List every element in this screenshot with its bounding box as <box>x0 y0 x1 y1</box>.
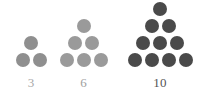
dot-row <box>14 51 48 68</box>
dot-row <box>67 34 101 51</box>
dot-row <box>23 34 40 51</box>
dot <box>77 19 91 33</box>
dot-group-10 <box>126 0 194 68</box>
group-label-6: 6 <box>58 76 109 90</box>
dot <box>136 36 150 50</box>
dot <box>77 53 91 67</box>
dot <box>85 36 99 50</box>
dot <box>60 53 74 67</box>
group-label-10: 10 <box>126 76 194 90</box>
dot <box>16 53 30 67</box>
dot <box>145 53 159 67</box>
dot <box>128 53 142 67</box>
dot <box>68 36 82 50</box>
dot <box>162 53 176 67</box>
dot-row <box>75 17 92 34</box>
dot <box>33 53 47 67</box>
triangular-numbers-figure: 3 6 10 <box>0 0 200 101</box>
dot <box>153 36 167 50</box>
dot <box>24 36 38 50</box>
dot-row <box>135 34 186 51</box>
dot-group-6 <box>58 17 109 68</box>
dot <box>153 2 167 16</box>
dot <box>179 53 193 67</box>
dot-group-3 <box>14 34 48 68</box>
dot-row <box>143 17 177 34</box>
dot-row <box>152 0 169 17</box>
dot <box>94 53 108 67</box>
dot <box>162 19 176 33</box>
dot-row <box>126 51 194 68</box>
group-label-3: 3 <box>14 76 48 90</box>
dot <box>145 19 159 33</box>
dot <box>170 36 184 50</box>
dot-row <box>58 51 109 68</box>
